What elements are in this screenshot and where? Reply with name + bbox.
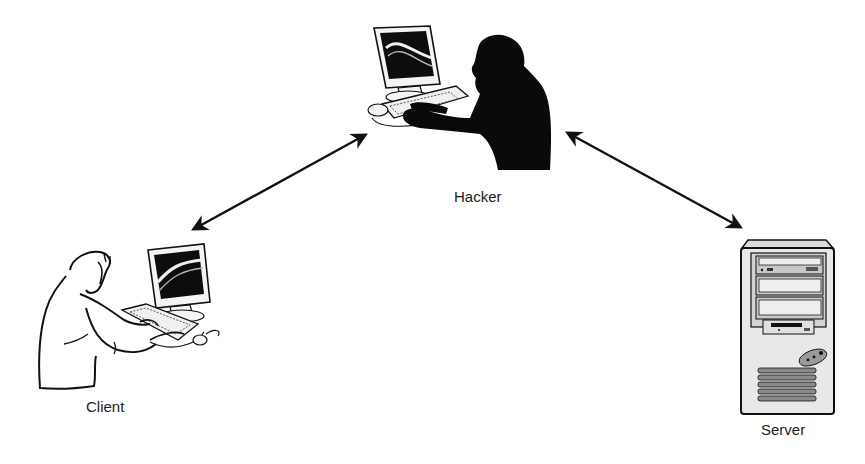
user-at-computer-icon (39, 244, 219, 389)
diagram-canvas (0, 0, 865, 464)
server-label: Server (761, 421, 805, 438)
arrow-hacker-server (568, 133, 740, 227)
server-tower-icon (741, 240, 834, 414)
hacker-silhouette-icon (368, 26, 551, 170)
client-label: Client (86, 398, 124, 415)
arrow-client-hacker (194, 135, 365, 229)
hacker-label: Hacker (454, 188, 502, 205)
